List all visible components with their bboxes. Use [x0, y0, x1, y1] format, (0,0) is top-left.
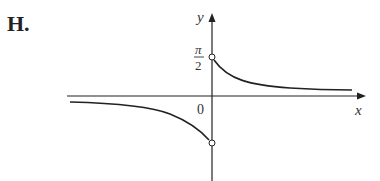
origin-label: 0 [197, 102, 204, 117]
left-branch-curve [70, 102, 209, 140]
y-tick-denominator: 2 [195, 58, 202, 73]
chart-plot: y x 0 π 2 [0, 0, 380, 181]
x-axis-label: x [354, 102, 362, 118]
x-axis-arrow-icon [357, 93, 366, 100]
y-tick-numerator: π [195, 42, 202, 57]
right-branch-curve [214, 60, 352, 90]
open-point-lower [209, 140, 215, 146]
y-axis-arrow-icon [209, 13, 216, 22]
y-axis-label: y [195, 9, 204, 25]
open-point-upper [209, 54, 215, 60]
